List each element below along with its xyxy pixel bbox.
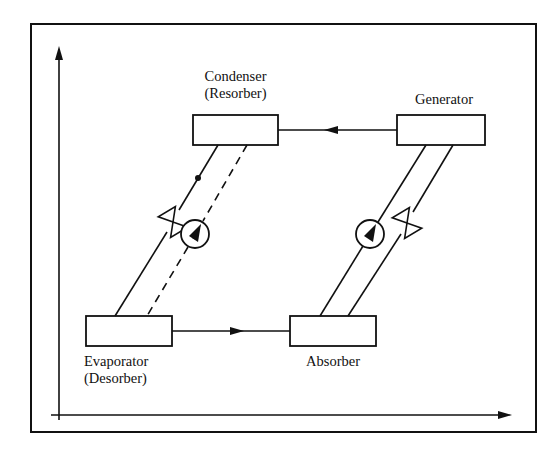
- generator-label: Generator: [398, 91, 490, 108]
- generator-to-condenser-line: [278, 126, 397, 134]
- condenser-subtitle: (Resorber): [188, 85, 283, 102]
- condenser-title: Condenser: [188, 68, 283, 85]
- generator-box: [397, 115, 485, 145]
- condenser-label: Condenser (Resorber): [188, 68, 283, 102]
- absorber-label: Absorber: [290, 353, 376, 370]
- evaporator-title: Evaporator: [84, 353, 174, 370]
- flow-dot-icon: [195, 175, 201, 181]
- arrow-left-icon: [324, 126, 338, 134]
- arrow-right-icon: [230, 327, 244, 335]
- y-axis-arrow-icon: [55, 46, 63, 60]
- evaporator-to-condenser-dashed-line: [147, 145, 247, 316]
- generator-title: Generator: [398, 91, 490, 108]
- pump-icon: [356, 220, 384, 248]
- evaporator-to-absorber-line: [172, 327, 290, 335]
- evaporator-box: [86, 316, 172, 346]
- absorber-title: Absorber: [290, 353, 376, 370]
- absorber-box: [290, 316, 376, 346]
- condenser-box: [193, 115, 278, 145]
- pump-icon: [181, 220, 209, 248]
- evaporator-label: Evaporator (Desorber): [84, 353, 174, 387]
- expansion-valve-icon: [392, 208, 422, 239]
- x-axis-arrow-icon: [498, 411, 512, 419]
- evaporator-subtitle: (Desorber): [84, 370, 174, 387]
